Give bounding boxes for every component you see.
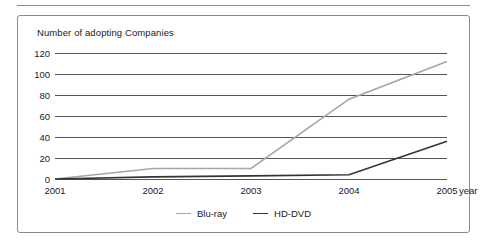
legend-item-hd-dvd[interactable]: HD-DVD: [253, 208, 311, 219]
y-axis-tick-label: 100: [34, 69, 50, 80]
chart-title: Number of adopting Companies: [37, 27, 174, 38]
chart-frame: Number of adopting Companies 02040608010…: [17, 15, 470, 233]
y-axis-tick-label: 40: [39, 132, 50, 143]
x-axis-label: year: [459, 185, 477, 196]
y-axis-tick-label: 60: [39, 111, 50, 122]
top-horizontal-rule: [17, 5, 470, 6]
legend-line-swatch: [253, 213, 268, 214]
y-axis-tick-label: 80: [39, 90, 50, 101]
series-lines: [55, 53, 447, 179]
y-axis-tick-label: 120: [34, 48, 50, 59]
chart-legend: Blu-rayHD-DVD: [18, 208, 469, 219]
plot-area: 020406080100120 20012002200320042005 yea…: [55, 53, 447, 179]
legend-item-blu-ray[interactable]: Blu-ray: [176, 208, 227, 219]
x-axis-tick-label: 2004: [338, 185, 359, 196]
x-axis-tick-label: 2003: [240, 185, 261, 196]
legend-line-swatch: [176, 213, 191, 214]
x-axis-tick-label: 2001: [44, 185, 65, 196]
x-axis-tick-label: 2005: [436, 185, 457, 196]
legend-label: Blu-ray: [197, 208, 227, 219]
y-axis-tick-label: 0: [45, 174, 50, 185]
gridline: [55, 179, 447, 180]
x-axis-tick-label: 2002: [142, 185, 163, 196]
legend-label: HD-DVD: [274, 208, 311, 219]
chart-figure: Number of adopting Companies 02040608010…: [0, 0, 487, 247]
y-axis-tick-label: 20: [39, 153, 50, 164]
